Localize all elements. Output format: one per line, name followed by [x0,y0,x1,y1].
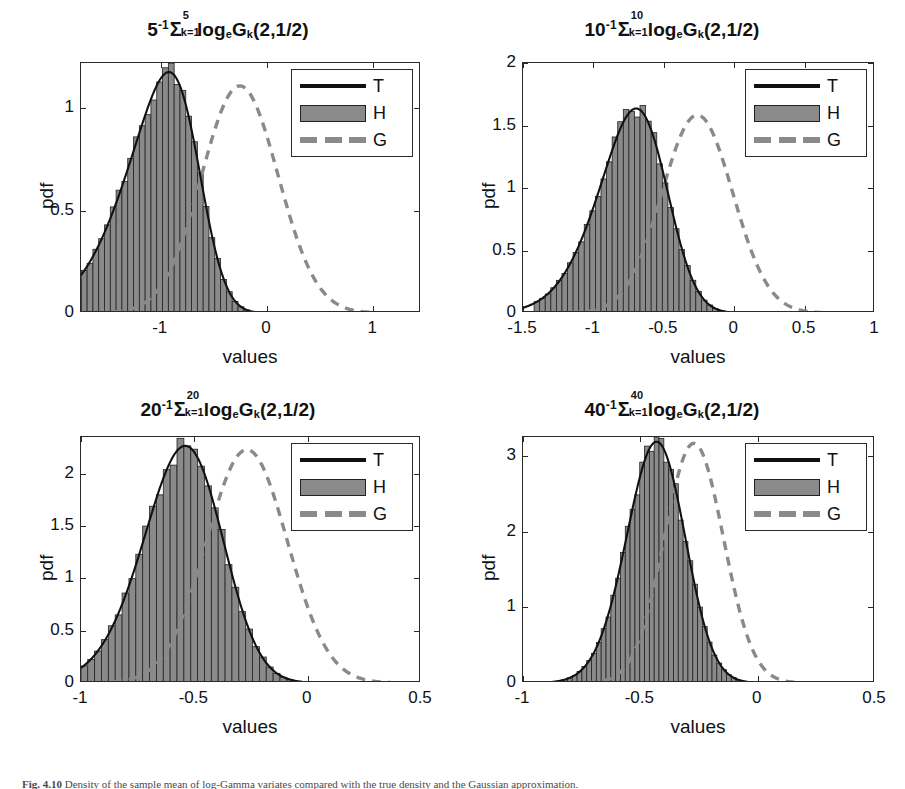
histogram-bar [129,579,136,682]
y-tick-label: 1.5 [484,115,516,135]
histogram-bar [618,122,624,312]
y-tick-label: 0 [42,302,74,322]
panel-n5: 5-1Σ5k=1logeGk(2,1/2) pdf values THG -10… [18,18,438,388]
histogram-bar [122,181,128,312]
legend-label: H [827,478,840,496]
histogram-bar [115,615,122,682]
x-tick-label: -1 [585,318,600,338]
histogram-bar [170,465,177,682]
legend: THG [745,443,867,531]
plot-area-n5: THG [80,62,420,312]
y-tick-label: 3 [484,445,516,465]
x-tick-label: -0.5 [648,318,677,338]
histogram-bar [657,164,663,312]
legend-patch-swatch [754,105,820,122]
x-axis-label-n10: values [522,346,874,368]
legend-dashed-line-swatch [754,511,820,517]
histogram-bar [204,486,211,682]
legend-label: H [827,104,840,122]
legend-item-g: G [300,504,405,524]
histogram-bar [177,438,184,682]
histogram-bar [635,495,640,682]
legend-item-g: G [754,130,859,150]
legend-swatch [754,133,820,147]
legend-label: T [827,77,838,95]
panel-n40: 40-1Σ40k=1logeGk(2,1/2) pdf values THG -… [452,398,892,758]
histogram-bar [579,242,585,312]
histogram-bar [646,121,652,312]
panel-n10: 10-1Σ10k=1logeGk(2,1/2) pdf values THG -… [452,18,892,388]
legend-solid-line-swatch [754,458,820,462]
legend-swatch [300,133,366,147]
x-tick-label: 0 [261,318,270,338]
histogram-bar [683,542,688,682]
histogram-bar [143,526,150,682]
x-tick-label: -0.5 [625,688,654,708]
histogram-bar [688,561,693,682]
legend: THG [291,443,413,531]
legend-swatch [754,106,820,120]
x-tick-label: -1 [152,318,167,338]
legend-patch-swatch [300,479,366,496]
x-tick-label: -1 [72,688,87,708]
histogram-bar [93,249,99,312]
y-tick-label: 0 [484,302,516,322]
x-tick-label: 0.5 [408,688,432,708]
legend-solid-line-swatch [300,458,366,462]
legend-swatch [300,453,366,467]
histogram-bar [649,451,654,682]
x-tick-label: -1 [514,688,529,708]
histogram-bar [590,211,596,312]
histogram-bar [95,651,102,682]
histogram-bar [151,100,157,312]
legend-label: G [827,505,841,523]
histogram-bar [134,137,140,312]
legend-swatch [754,79,820,93]
histogram-bar [88,660,95,682]
legend-swatch [300,480,366,494]
legend-label: T [373,77,384,95]
panel-title-n5: 5-1Σ5k=1logeGk(2,1/2) [18,18,438,41]
histogram-bar [595,196,601,312]
y-tick-label: 2 [42,463,74,483]
histogram-bar [211,508,218,682]
histogram-bar [99,239,105,312]
histogram-bar [184,446,191,682]
figure-root: 5-1Σ5k=1logeGk(2,1/2) pdf values THG -10… [0,0,905,789]
y-tick-label: 0.5 [42,200,74,220]
histogram-bar [87,263,93,312]
x-tick-label: 0.5 [862,688,886,708]
y-tick-label: 1 [42,97,74,117]
legend-patch-swatch [754,479,820,496]
histogram-bar [197,173,203,312]
x-tick-label: 1 [869,318,878,338]
legend-item-t: T [754,450,859,470]
histogram-bar [601,179,607,312]
x-tick-label: 0.5 [792,318,816,338]
histogram-bar [157,82,163,312]
histogram-bar [218,529,225,682]
histogram-bar [620,552,625,682]
histogram-bar [606,617,611,682]
y-tick-label: 1 [484,177,516,197]
histogram-bar [198,466,205,682]
histogram-bar [225,565,232,682]
legend-swatch [300,507,366,521]
legend-swatch [754,507,820,521]
histogram-bar [664,462,669,682]
histogram-bar [673,484,678,682]
y-tick-label: 0.5 [42,620,74,640]
histogram-bars [81,63,319,312]
panel-title-n40: 40-1Σ40k=1logeGk(2,1/2) [452,398,892,421]
histogram-bar [612,137,618,312]
x-tick-label: -0.5 [179,688,208,708]
histogram-bar [81,270,87,312]
histogram-bar [191,449,198,682]
legend: THG [745,69,867,157]
legend-label: G [373,131,387,149]
x-axis-label-n40: values [522,716,874,738]
legend-label: T [827,451,838,469]
legend-label: G [373,505,387,523]
x-tick-label: 0 [302,688,311,708]
histogram-bar [634,117,640,312]
